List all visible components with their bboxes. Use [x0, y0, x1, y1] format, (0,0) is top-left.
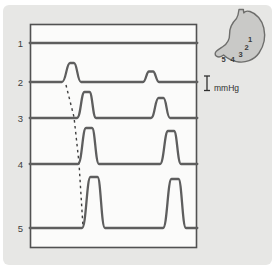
- stomach-site-number-2: 2: [244, 43, 248, 52]
- trace-label-5: 5: [18, 223, 23, 234]
- chart-panel: [31, 25, 197, 248]
- pressure-scale-label: mmHg: [214, 83, 239, 93]
- gastric-peristalsis-figure: 12345mmHg12345: [0, 0, 275, 267]
- trace-label-4: 4: [18, 159, 23, 170]
- trace-label-3: 3: [18, 113, 23, 124]
- figure-page: 12345mmHg12345: [0, 0, 275, 267]
- trace-label-2: 2: [18, 77, 23, 88]
- trace-label-1: 1: [18, 38, 23, 49]
- stomach-site-number-5: 5: [221, 55, 225, 64]
- stomach-site-number-3: 3: [238, 50, 242, 59]
